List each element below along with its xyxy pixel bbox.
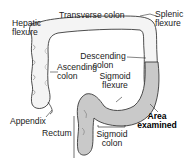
label-splenic-flexure: Splenic flexure: [155, 10, 183, 28]
label-appendix: Appendix: [10, 117, 46, 126]
leader-sigmoid-flexure: [116, 97, 122, 102]
label-descending-colon: Descending colon: [78, 52, 128, 70]
label-rectum: Rectum: [42, 129, 72, 138]
label-sigmoid-colon: Sigmoid colon: [93, 130, 131, 148]
leader-transverse: [140, 14, 150, 16]
label-transverse-colon: Transverse colon: [59, 11, 125, 20]
label-hepatic-flexure: Hepatic flexure: [12, 19, 41, 37]
label-sigmoid-flexure: Sigmoid flexure: [95, 72, 135, 90]
leader-descending: [127, 57, 146, 58]
label-area-examined: Area examined: [134, 112, 180, 130]
colon-diagram: Hepatic flexure Transverse colon Splenic…: [0, 0, 186, 161]
